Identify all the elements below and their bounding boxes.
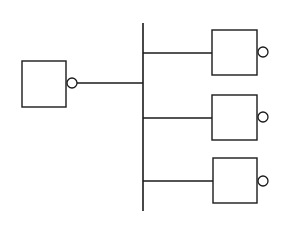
load-gate-body-1	[212, 30, 257, 75]
load-inversion-bubble-icon-2	[258, 112, 268, 122]
load-inversion-bubble-icon-1	[258, 47, 268, 57]
fanout-diagram	[0, 0, 286, 228]
load-gate-body-3	[213, 158, 257, 203]
source-gate	[22, 61, 143, 107]
source-inversion-bubble-icon	[67, 78, 77, 88]
load-gate-1	[143, 30, 268, 75]
load-inversion-bubble-icon-3	[258, 176, 268, 186]
load-gate-3	[143, 158, 268, 203]
load-gate-2	[143, 95, 268, 140]
load-gate-body-2	[212, 95, 257, 140]
source-gate-body	[22, 61, 66, 107]
